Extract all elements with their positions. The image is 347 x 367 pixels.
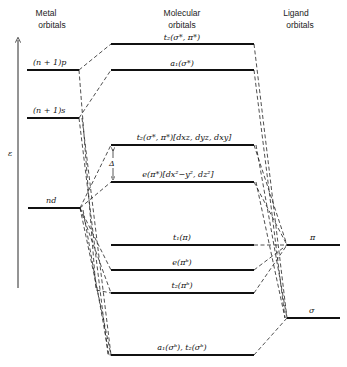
metal-label-np1s: (n + 1)s — [33, 106, 65, 115]
mo-label-e-d: e(π*)[dx²−y², dz²] — [142, 170, 214, 179]
correlation-lines — [79, 44, 287, 355]
ligand-label-sigma: σ — [309, 306, 315, 315]
mo-label-t1: t₁(π) — [173, 233, 191, 242]
molecular-header-line2: orbitals — [168, 20, 195, 30]
conn-nd-ed — [80, 182, 111, 208]
mo-label-t2-bonding: t₂(πᵇ) — [171, 281, 192, 290]
ligand-header-line1: Ligand — [283, 8, 309, 18]
conn-np1s-a1t2b — [79, 118, 111, 355]
conn-np1p-t2star — [79, 44, 111, 70]
ligand-label-pi: π — [309, 233, 316, 242]
conn-t2b-pi — [254, 245, 287, 293]
conn-t2star-sigma — [254, 44, 287, 318]
mo-label-t2-antibonding: t₂(σ*, π*) — [164, 33, 200, 42]
metal-label-np1p: (n + 1)p — [33, 58, 66, 67]
conn-a1t2b-sigma — [254, 318, 287, 355]
mo-label-t2-d: t₂(σ*, π*)[dxz, dyz, dxy] — [137, 133, 233, 142]
conn-nd-t2d — [80, 145, 111, 208]
conn-np1s-a1star — [79, 70, 111, 118]
conn-ed-pi — [254, 182, 287, 245]
mo-diagram: Metal orbitals Molecular orbitals Ligand… — [0, 0, 347, 367]
mo-label-e-bonding: e(πᵇ) — [172, 258, 191, 267]
molecular-header-line1: Molecular — [164, 8, 201, 18]
metal-header-line2: orbitals — [38, 20, 65, 30]
energy-axis-label: ε — [8, 149, 12, 158]
metal-label-nd: nd — [46, 196, 56, 205]
ligand-header-line2: orbitals — [286, 20, 313, 30]
mo-label-a1t2-bonding: a₁(σᵇ), t₂(σᵇ) — [157, 343, 206, 352]
conn-np1p-t2b — [79, 70, 111, 293]
metal-header-line1: Metal — [36, 8, 57, 18]
splitting-label: Δ — [108, 159, 115, 168]
mo-label-a1-antibonding: a₁(σ*) — [170, 59, 194, 68]
conn-nd-a1t2b-2 — [83, 210, 109, 355]
